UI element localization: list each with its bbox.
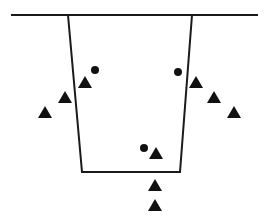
triangle-markers [38, 76, 241, 211]
trench-diagram [0, 0, 264, 224]
triangle-marker [148, 199, 162, 211]
triangle-marker [149, 147, 163, 159]
trench-outline [68, 15, 192, 172]
triangle-marker [148, 179, 162, 191]
triangle-marker [189, 76, 203, 88]
dot-marker [174, 68, 182, 76]
triangle-marker [207, 91, 221, 103]
dot-markers [91, 66, 182, 152]
triangle-marker [38, 106, 52, 118]
dot-marker [140, 144, 148, 152]
dot-marker [91, 66, 99, 74]
triangle-marker [58, 91, 72, 103]
triangle-marker [227, 106, 241, 118]
triangle-marker [78, 76, 92, 88]
